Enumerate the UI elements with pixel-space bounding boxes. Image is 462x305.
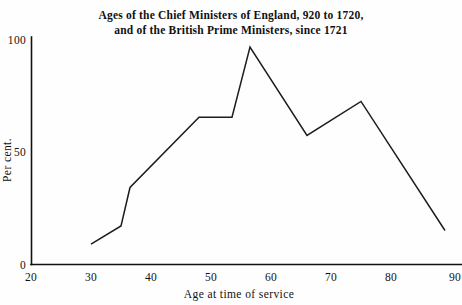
y-axis-title: Per cent. [1, 138, 13, 182]
x-tick-label-60: 60 [265, 271, 277, 283]
x-tick-label-80: 80 [385, 271, 397, 283]
x-tick-label-30: 30 [85, 271, 97, 283]
chart-figure: Ages of the Chief Ministers of England, … [0, 0, 462, 305]
y-tick-label-0: 0 [20, 259, 26, 271]
x-tick-label-70: 70 [325, 271, 337, 283]
x-tick-label-90: 90 [449, 271, 461, 283]
data-series-line [91, 47, 445, 244]
chart-canvas: 100 50 0 20 30 40 50 60 70 80 90 Age at … [0, 0, 462, 305]
y-tick-label-100: 100 [8, 34, 26, 46]
x-tick-label-40: 40 [145, 271, 157, 283]
x-tick-label-20: 20 [25, 271, 37, 283]
x-axis-title: Age at time of service [184, 288, 294, 301]
y-tick-label-50: 50 [14, 146, 26, 158]
x-tick-label-50: 50 [205, 271, 217, 283]
